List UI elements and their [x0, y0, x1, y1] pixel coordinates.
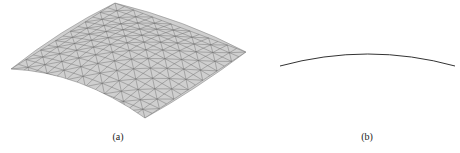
caption-b: (b) [347, 131, 387, 142]
caption-a: (a) [98, 131, 138, 142]
panel-b: (b) [250, 0, 460, 153]
panel-a: (a) [0, 0, 250, 153]
figure: (a) (b) [0, 0, 460, 153]
arc-curve [280, 54, 455, 66]
